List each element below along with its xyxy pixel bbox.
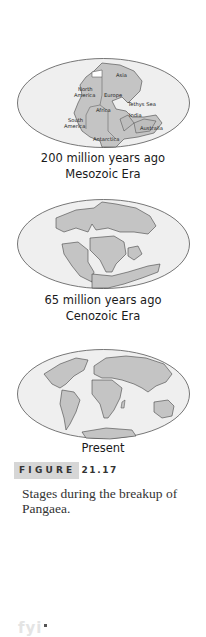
- map-continents-present: [16, 348, 191, 440]
- fyi-logo: fyi: [18, 620, 42, 637]
- figure-number: 21.17: [81, 465, 117, 475]
- fyi-logo-dot-icon: [44, 624, 47, 627]
- label-tethys-sea: Tethys Sea: [127, 101, 156, 108]
- map-continents-65mya: [16, 198, 191, 290]
- label-africa: Africa: [96, 107, 111, 113]
- label-antarctica: Antarctica: [93, 136, 119, 142]
- stage-2-era: Cenozoic Era: [0, 308, 206, 324]
- stage-2-age: 65 million years ago: [0, 292, 206, 308]
- stage-1-age: 200 million years ago: [0, 150, 206, 166]
- stage-3-age: Present: [0, 440, 206, 456]
- label-europe: Europe: [104, 92, 122, 99]
- label-north-america: America: [74, 92, 95, 98]
- figure-caption: Stages during the breakup of Pangaea.: [22, 486, 202, 516]
- label-india: India: [129, 112, 142, 118]
- stage-1-era: Mesozoic Era: [0, 166, 206, 182]
- figure-label-word: FIGURE: [14, 462, 79, 479]
- present-map-graphic: [16, 348, 191, 440]
- figure-label: FIGURE21.17: [14, 462, 118, 479]
- label-australia: Australia: [140, 125, 163, 131]
- pangaea-map-graphic: Asia North America Europe Tethys Sea Afr…: [16, 57, 191, 149]
- label-asia: Asia: [116, 72, 127, 78]
- label-south-america: America: [64, 123, 85, 129]
- map-pangaea-200mya: Asia North America Europe Tethys Sea Afr…: [16, 57, 191, 149]
- cretaceous-map-graphic: [16, 198, 191, 290]
